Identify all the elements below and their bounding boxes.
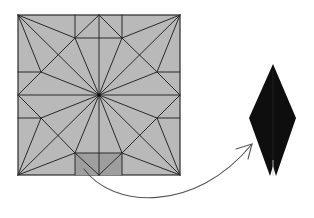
diamond-base xyxy=(249,64,296,176)
center-vertex xyxy=(97,93,100,96)
crease-pattern xyxy=(18,15,180,175)
origami-diagram xyxy=(0,0,314,218)
folded-model xyxy=(249,64,296,176)
